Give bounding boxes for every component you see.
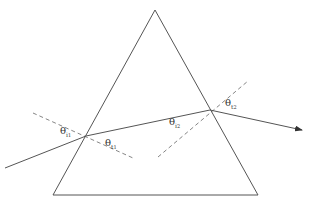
label-theta-t1: θt1 bbox=[105, 138, 117, 150]
subsubscript: 1 bbox=[68, 132, 71, 138]
label-theta-t2: θt2 bbox=[225, 98, 237, 110]
subsubscript: 2 bbox=[177, 123, 180, 129]
incident-ray bbox=[5, 136, 86, 168]
emergent-ray bbox=[210, 110, 302, 130]
subsubscript: 2 bbox=[233, 104, 236, 110]
subsubscript: 1 bbox=[113, 144, 116, 150]
prism-diagram bbox=[0, 0, 314, 203]
label-theta-i1: θi1 bbox=[60, 126, 71, 138]
internal-ray bbox=[86, 110, 210, 136]
label-theta-i2: θi2 bbox=[169, 117, 180, 129]
